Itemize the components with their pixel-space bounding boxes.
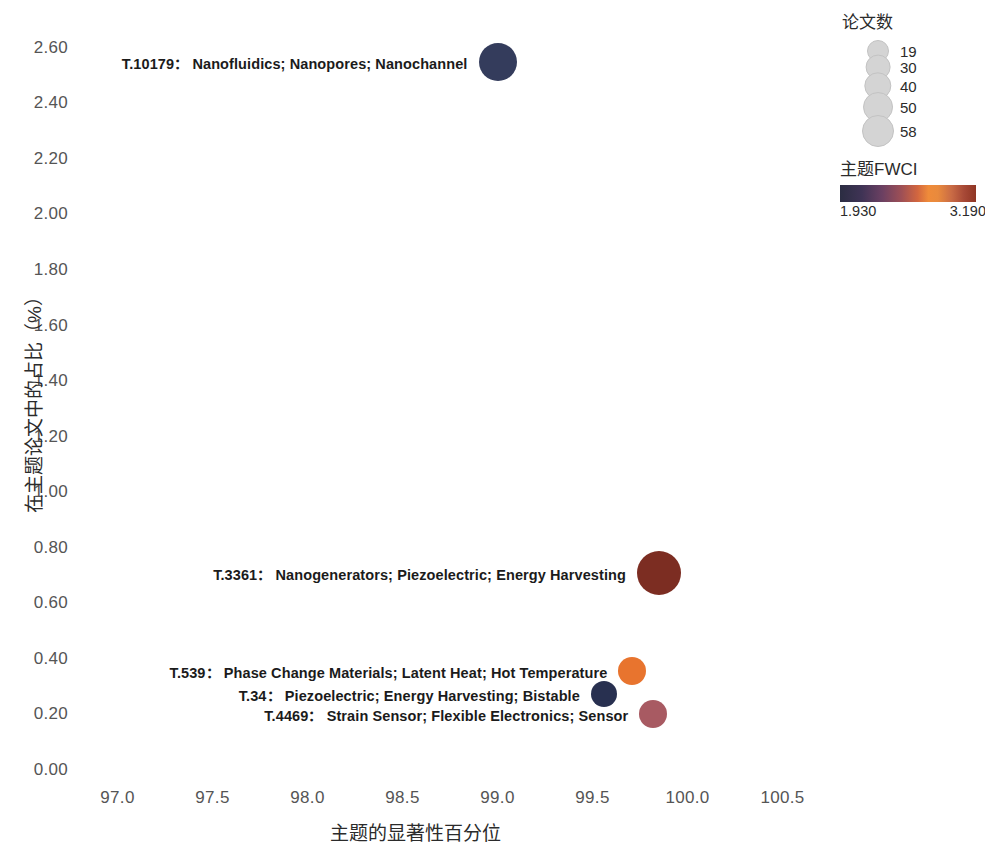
colorbar-ticks: 1.930 3.190 xyxy=(840,203,980,223)
colorbar-gradient xyxy=(840,185,976,202)
x-axis-tick-label: 99.0 xyxy=(480,788,514,808)
x-axis-tick-label: 100.5 xyxy=(760,788,804,808)
color-legend-title: 主题FWCI xyxy=(840,155,980,180)
data-point-bubble[interactable] xyxy=(591,681,617,707)
x-axis-tick-label: 99.5 xyxy=(575,788,609,808)
data-point-label: T.34： Piezoelectric; Energy Harvesting; … xyxy=(239,683,585,704)
data-point-label: T.539： Phase Change Materials; Latent He… xyxy=(170,661,613,682)
y-axis-title: 在主题论文中的占比（%） xyxy=(19,250,46,550)
bubble-chart: 0.000.200.400.600.801.001.201.401.601.80… xyxy=(0,0,985,848)
data-point-label: T.10179： Nanofluidics; Nanopores; Nanoch… xyxy=(122,51,473,72)
data-point-bubble[interactable] xyxy=(637,551,681,595)
y-axis-tick-label: 2.00 xyxy=(34,204,68,224)
y-axis-tick-label: 0.20 xyxy=(34,704,68,724)
colorbar-max-label: 3.190 xyxy=(950,203,985,219)
size-legend: 论文数 1930405058 xyxy=(838,8,978,37)
x-axis-tick-label: 98.0 xyxy=(290,788,324,808)
data-point-id: T.34： xyxy=(239,687,281,703)
color-legend: 主题FWCI 1.930 3.190 xyxy=(840,155,980,223)
y-axis-tick-label: 2.20 xyxy=(34,149,68,169)
data-point-id: T.4469： xyxy=(264,708,322,724)
y-axis-tick-label: 2.60 xyxy=(34,38,68,58)
size-legend-label: 30 xyxy=(900,59,917,76)
data-point-bubble[interactable] xyxy=(639,700,667,728)
data-point-id: T.539： xyxy=(170,665,220,681)
size-legend-bubble xyxy=(862,115,894,147)
x-axis-tick-label: 100.0 xyxy=(665,788,709,808)
size-legend-label: 19 xyxy=(900,43,917,60)
colorbar-min-label: 1.930 xyxy=(840,203,876,219)
x-axis-tick-label: 98.5 xyxy=(385,788,419,808)
data-point-id: T.3361： xyxy=(213,566,271,582)
size-legend-title: 论文数 xyxy=(838,8,978,33)
data-point-bubble[interactable] xyxy=(479,43,517,81)
plot-area: T.10179： Nanofluidics; Nanopores; Nanoch… xyxy=(70,20,830,770)
data-point-keywords: Nanofluidics; Nanopores; Nanochannel xyxy=(188,55,472,71)
y-axis-tick-label: 0.60 xyxy=(34,593,68,613)
data-point-keywords: Nanogenerators; Piezoelectric; Energy Ha… xyxy=(271,566,631,582)
data-point-label: T.3361： Nanogenerators; Piezoelectric; E… xyxy=(213,562,631,583)
y-axis-title-wrapper: 在主题论文中的占比（%） xyxy=(0,250,40,550)
data-point-bubble[interactable] xyxy=(618,657,646,685)
size-legend-label: 58 xyxy=(900,123,917,140)
x-axis-tick-label: 97.5 xyxy=(195,788,229,808)
data-point-id: T.10179： xyxy=(122,55,188,71)
y-axis-tick-label: 0.40 xyxy=(34,649,68,669)
data-point-keywords: Piezoelectric; Energy Harvesting; Bistab… xyxy=(281,687,585,703)
y-axis-tick-label: 0.00 xyxy=(34,760,68,780)
data-point-label: T.4469： Strain Sensor; Flexible Electron… xyxy=(264,704,633,725)
size-legend-label: 50 xyxy=(900,99,917,116)
data-point-keywords: Phase Change Materials; Latent Heat; Hot… xyxy=(220,665,613,681)
y-axis-tick-label: 2.40 xyxy=(34,93,68,113)
size-legend-label: 40 xyxy=(900,77,917,94)
x-axis-tick-layer: 97.097.598.098.599.099.5100.0100.5 xyxy=(70,788,830,814)
data-point-keywords: Strain Sensor; Flexible Electronics; Sen… xyxy=(323,708,634,724)
x-axis-title: 主题的显著性百分位 xyxy=(0,818,830,845)
x-axis-tick-label: 97.0 xyxy=(100,788,134,808)
